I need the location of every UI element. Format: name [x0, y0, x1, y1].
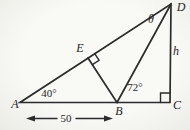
right-angle-mark-c — [161, 93, 171, 103]
geometry-figure: A B C D E 40° 72° θ h 50 — [0, 0, 190, 130]
vertex-label-e: E — [75, 41, 84, 55]
line-bd — [117, 4, 171, 103]
vertex-label-c: C — [173, 98, 182, 112]
angle-label-a: 40° — [41, 87, 56, 99]
vertex-label-a: A — [10, 97, 19, 111]
angle-label-b: 72° — [127, 81, 142, 93]
vertex-label-d: D — [176, 0, 186, 14]
vertex-label-b: B — [115, 104, 123, 118]
height-label: h — [173, 44, 179, 58]
right-arrowhead-icon — [104, 116, 113, 122]
theta-angle-label: θ — [148, 12, 154, 26]
base-dimension-label: 50 — [61, 112, 73, 124]
left-arrowhead-icon — [26, 116, 35, 122]
geometry-canvas: A B C D E 40° 72° θ h 50 — [0, 0, 190, 130]
